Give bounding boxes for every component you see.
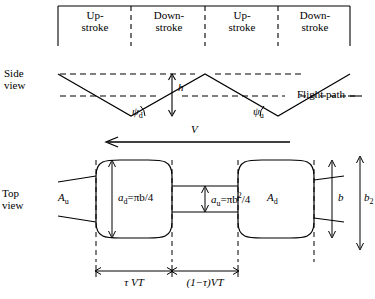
planform-right-lower-edge: [314, 218, 344, 222]
phase-label-down-stroke-2-line1: Down-: [282, 10, 348, 22]
side-view-label: Side view: [4, 68, 25, 91]
planform-left-upper-edge: [58, 176, 96, 182]
phase-label-down-stroke-2: Down- stroke: [282, 10, 348, 33]
disc-area-up-value: =πb: [221, 193, 238, 205]
angle-psi-d-label: ψd: [132, 106, 143, 121]
area-up-label: Au: [58, 192, 69, 207]
angle-psi-u-label: ψu: [253, 106, 264, 121]
disc-area-down-value: =πb/4: [128, 191, 154, 203]
side-view-label-line2: view: [4, 80, 25, 92]
phase-label-up-stroke-1-line2: stroke: [64, 22, 126, 34]
flight-path-label: Flight path: [297, 89, 345, 101]
top-view-label: Top view: [2, 188, 23, 211]
length-down-label: τ VT: [104, 277, 164, 289]
phase-label-down-stroke-1-line1: Down-: [136, 10, 202, 22]
side-view-label-line1: Side: [4, 68, 25, 80]
velocity-label-V: V: [191, 124, 198, 136]
length-down-text: τ VT: [124, 276, 144, 288]
planform-right-upper-edge: [314, 176, 344, 180]
top-view-label-line2: view: [2, 200, 23, 212]
span-label-b: b: [338, 192, 344, 204]
phase-label-up-stroke-1: Up- stroke: [64, 10, 126, 33]
psi-d-subscript: d: [139, 111, 143, 120]
length-up-label: (1−τ)VT: [174, 277, 236, 289]
psi-u-symbol: ψ: [253, 105, 260, 117]
top-view-label-line1: Top: [2, 188, 23, 200]
phase-label-up-stroke-2-line2: stroke: [211, 22, 273, 34]
planform-left-lower-edge: [58, 216, 96, 222]
figure-drawing: [0, 0, 375, 299]
phase-label-down-stroke-1: Down- stroke: [136, 10, 202, 33]
psi-d-symbol: ψ: [132, 105, 139, 117]
disc-area-down-label: ad=πb/4: [118, 192, 153, 207]
phase-label-up-stroke-1-line1: Up-: [64, 10, 126, 22]
area-down-symbol: A: [267, 191, 274, 203]
span2-subscript: 2: [370, 197, 374, 206]
area-up-symbol: A: [58, 191, 65, 203]
disc-area-up-value-tail: /4: [242, 193, 251, 205]
figure-container: Up- stroke Down- stroke Up- stroke Down-…: [0, 0, 375, 299]
phase-label-up-stroke-2: Up- stroke: [211, 10, 273, 33]
phase-label-down-stroke-2-line2: stroke: [282, 22, 348, 34]
phase-label-down-stroke-1-line2: stroke: [136, 22, 202, 34]
disc-area-up-label: au=πb2/4: [211, 192, 250, 208]
length-up-text: (1−τ)VT: [186, 276, 223, 288]
height-symbol-h: h: [178, 82, 184, 94]
phase-label-up-stroke-2-line1: Up-: [211, 10, 273, 22]
area-down-subscript: d: [274, 197, 278, 206]
area-up-subscript: u: [65, 197, 69, 206]
area-down-label: Ad: [267, 192, 278, 207]
span2-label: b2: [364, 192, 374, 207]
psi-u-subscript: u: [260, 111, 264, 120]
